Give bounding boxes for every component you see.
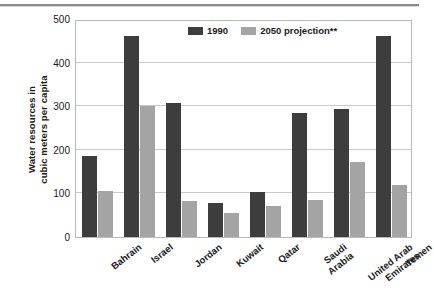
x-tick-label-jordan: Jordan <box>193 242 224 270</box>
x-tick-label-bahrain: Bahrain <box>110 242 144 272</box>
bar-group <box>376 21 407 237</box>
y-tick-label-200: 200 <box>30 146 70 156</box>
x-tick-label-qatar: Qatar <box>276 242 302 266</box>
legend-swatch-icon <box>188 27 203 35</box>
bar <box>292 113 307 237</box>
x-tick-label-saudi-arabia: SaudiArabia <box>319 242 355 277</box>
bar <box>350 162 365 237</box>
y-tick-label-300: 300 <box>30 102 70 112</box>
y-tick-label-500: 500 <box>30 15 70 25</box>
y-tick-label-100: 100 <box>30 189 70 199</box>
x-tick-label-line: Israel <box>149 242 175 266</box>
bar-group <box>250 21 281 237</box>
x-tick-label-line: Qatar <box>276 242 302 266</box>
bar-group <box>292 21 323 237</box>
bar-group <box>124 21 155 237</box>
bar-group <box>334 21 365 237</box>
y-tick-label-0: 0 <box>30 233 70 243</box>
bar <box>224 213 239 237</box>
bars-layer <box>76 21 411 237</box>
x-tick-label-line: Bahrain <box>110 242 144 272</box>
legend-label: 1990 <box>207 25 228 36</box>
legend-entry: 2050 projection** <box>241 25 337 36</box>
legend-entry: 1990 <box>188 25 228 36</box>
x-tick-label-line: Kuwait <box>235 242 266 269</box>
bar-group <box>166 21 197 237</box>
bar <box>140 106 155 237</box>
bar <box>334 109 349 237</box>
x-tick-label-line: Jordan <box>193 242 224 270</box>
bar <box>250 192 265 237</box>
legend-swatch-icon <box>241 27 256 35</box>
plot-area <box>75 20 412 238</box>
x-tick-label-israel: Israel <box>149 242 175 266</box>
x-tick-label-kuwait: Kuwait <box>235 242 266 269</box>
bar <box>266 206 281 237</box>
bar <box>182 201 197 237</box>
chart-legend: 19902050 projection** <box>188 25 337 36</box>
bar <box>82 156 97 237</box>
bar-group <box>82 21 113 237</box>
bar <box>208 203 223 237</box>
y-tick-label-400: 400 <box>30 59 70 69</box>
bar <box>166 103 181 237</box>
bar <box>392 185 407 237</box>
bar <box>308 200 323 237</box>
bar-group <box>208 21 239 237</box>
bar <box>124 36 139 237</box>
legend-label: 2050 projection** <box>260 25 337 36</box>
bar <box>376 36 391 237</box>
bar <box>98 191 113 237</box>
